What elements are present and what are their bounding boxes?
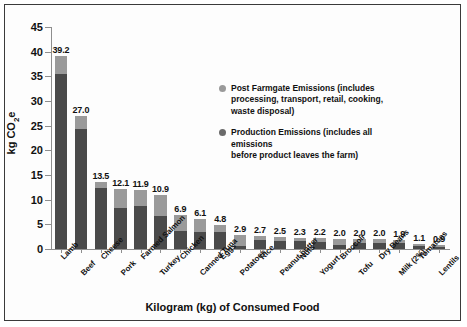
x-axis-tick [280, 249, 281, 253]
legend-swatch-icon [219, 129, 226, 136]
chart-frame: kg CO2e 05101520253035404539.227.013.512… [4, 4, 461, 321]
x-axis-tick [359, 249, 360, 253]
x-axis-tick [320, 249, 321, 253]
y-axis-tick [45, 101, 51, 102]
segment-production [134, 206, 146, 249]
y-axis-tick-label: 25 [31, 120, 43, 132]
y-axis-tick-label: 10 [31, 194, 43, 206]
x-axis-category-label: Tofu [357, 259, 375, 277]
bar-value-label: 11.9 [132, 179, 148, 189]
stacked-bar [134, 190, 146, 249]
bar-value-label: 6.1 [194, 208, 206, 218]
segment-production [75, 129, 87, 249]
bar-farmed-salmon[interactable]: 11.9 [134, 190, 146, 249]
segment-post-farmgate [134, 190, 146, 206]
bar-value-label: 2.0 [334, 228, 346, 238]
x-axis-category-label: Yogurt [318, 254, 342, 278]
x-axis-tick [439, 249, 440, 253]
bar-value-label: 2.7 [254, 225, 266, 235]
bar-value-label: 4.8 [214, 214, 226, 224]
y-axis-tick [45, 249, 51, 250]
y-axis-tick [45, 52, 51, 53]
y-axis-tick [45, 175, 51, 176]
segment-production [174, 231, 186, 249]
bar-value-label: 12.1 [112, 178, 129, 188]
y-axis-tick-label: 40 [31, 46, 43, 58]
x-axis-title: Kilogram (kg) of Consumed Food [5, 301, 460, 313]
bar-cheese[interactable]: 13.5 [95, 182, 107, 249]
x-axis-category-label: Lentils [437, 253, 461, 277]
segment-post-farmgate [214, 225, 226, 232]
bar-peanut-butter[interactable]: 2.5 [274, 237, 286, 249]
y-axis-tick-label: 15 [31, 169, 43, 181]
bar-value-label: 2.0 [373, 228, 385, 238]
y-axis-tick-label: 5 [37, 218, 43, 230]
x-axis-tick [399, 249, 400, 253]
stacked-bar [55, 56, 67, 249]
y-axis-tick [45, 224, 51, 225]
y-axis-tick [45, 200, 51, 201]
x-axis-tick [200, 249, 201, 253]
x-axis-tick [81, 249, 82, 253]
y-axis-tick-label: 30 [31, 95, 43, 107]
bar-value-label: 2.5 [274, 226, 286, 236]
segment-production [55, 74, 67, 249]
bar-value-label: 10.9 [152, 184, 169, 194]
x-axis-tick [160, 249, 161, 253]
segment-post-farmgate [55, 56, 67, 74]
y-axis-tick [45, 150, 51, 151]
legend-swatch-icon [219, 85, 226, 92]
y-axis-tick [45, 27, 51, 28]
bar-value-label: 1.1 [413, 233, 425, 243]
legend-item-production[interactable]: Production Emissions (includes all emiss… [219, 127, 404, 161]
x-axis-category-label: Pork [119, 259, 138, 278]
stacked-bar [95, 182, 107, 249]
y-axis-tick-label: 0 [37, 243, 43, 255]
segment-post-farmgate [114, 189, 126, 207]
bar-value-label: 13.5 [92, 171, 109, 181]
y-axis-tick-label: 35 [31, 70, 43, 82]
y-axis-tick [45, 126, 51, 127]
bar-value-label: 2.3 [294, 227, 306, 237]
bar-lamb[interactable]: 39.2 [55, 56, 67, 249]
stacked-bar [274, 237, 286, 249]
bar-value-label: 2.9 [234, 224, 246, 234]
segment-post-farmgate [194, 219, 206, 232]
legend-item-post-farmgate[interactable]: Post Farmgate Emissions (includesprocess… [219, 83, 404, 117]
segment-post-farmgate [75, 116, 87, 129]
legend-label: Production Emissions (includes all emiss… [231, 127, 404, 161]
stacked-bar [75, 116, 87, 249]
bar-value-label: 27.0 [72, 105, 89, 115]
x-axis-tick [121, 249, 122, 253]
y-axis-tick [45, 76, 51, 77]
y-axis-tick-label: 45 [31, 21, 43, 33]
x-axis-category-label: Turkey [158, 253, 182, 277]
bar-beef[interactable]: 27.0 [75, 116, 87, 249]
chart-legend: Post Farmgate Emissions (includesprocess… [219, 83, 404, 172]
x-axis-category-label: Beef [79, 259, 97, 277]
bar-value-label: 2.2 [314, 227, 326, 237]
y-axis-title: kg CO2e [5, 112, 20, 155]
y-axis-tick-label: 20 [31, 144, 43, 156]
x-axis-tick [240, 249, 241, 253]
segment-post-farmgate [154, 195, 166, 216]
segment-production [95, 188, 107, 249]
legend-label: Post Farmgate Emissions (includesprocess… [231, 83, 383, 117]
bar-value-label: 39.2 [53, 45, 70, 55]
